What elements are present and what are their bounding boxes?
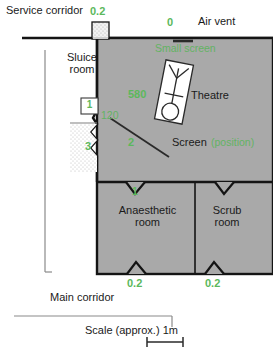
sluice-room-label-line2: room (69, 63, 94, 75)
service-corridor-label: Service corridor (6, 4, 83, 16)
theatre-label: Theatre (191, 89, 229, 101)
annotation-top-left-door: 0.2 (90, 5, 105, 17)
annotation-anaesthetic-bottom-door: 0.2 (127, 277, 142, 289)
service-corridor-doorway (92, 22, 109, 39)
scrub-room-label-line1: Scrub (213, 204, 242, 216)
screen-label: Screen (172, 136, 207, 148)
annotation-sluice-hatch: 3 (85, 140, 91, 152)
scrub-room-label-line2: room (214, 216, 239, 228)
annotation-scrub-bottom-door: 0.2 (205, 277, 220, 289)
floor-plan-diagram (0, 0, 273, 350)
sluice-room-label-line1: Sluice (67, 51, 97, 63)
annotation-sluice-door-box: 1 (81, 99, 98, 110)
scale-label: Scale (approx.) 1m (85, 324, 178, 336)
annotation-wall-left: 120 (101, 110, 119, 122)
annotation-theatre-bottom-door: 1 (132, 186, 138, 198)
anaesthetic-room-label: Anaesthetic room (105, 204, 190, 228)
anaesthetic-room-label-line2: room (135, 216, 160, 228)
annotation-theatre-centre: 580 (128, 88, 146, 100)
scrub-room-label: Scrub room (198, 204, 256, 228)
sluice-room-label: Sluice room (58, 51, 106, 75)
annotation-air-vent: 0 (167, 16, 173, 28)
annotation-screen-marker: 2 (128, 136, 134, 148)
small-screen-label: Small screen (155, 43, 216, 55)
air-vent-label: Air vent (198, 15, 235, 27)
screen-position-label: (position) (211, 137, 254, 149)
sluice-stippled-floor (70, 124, 97, 172)
main-corridor-label: Main corridor (50, 291, 114, 303)
anaesthetic-room-label-line1: Anaesthetic (119, 204, 176, 216)
